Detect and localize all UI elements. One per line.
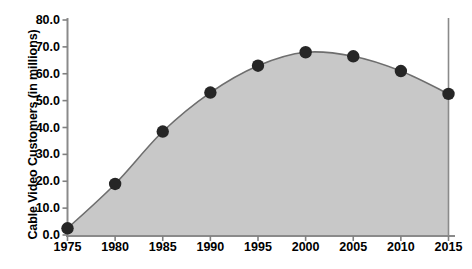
- data-point-marker: [299, 46, 311, 58]
- data-point-marker: [442, 88, 454, 100]
- data-point-marker: [157, 125, 169, 137]
- x-tick-label: 2010: [374, 241, 428, 254]
- data-point-marker: [252, 59, 264, 71]
- data-point-marker: [61, 222, 73, 234]
- data-point-marker: [395, 65, 407, 77]
- plot-area: [0, 0, 472, 269]
- area-fill: [68, 52, 449, 235]
- x-tick-label: 1980: [88, 241, 142, 254]
- x-tick-label: 2015: [422, 241, 472, 254]
- data-point-marker: [109, 178, 121, 190]
- x-tick-label: 1995: [231, 241, 285, 254]
- x-tick-label: 1975: [41, 241, 95, 254]
- x-tick-label: 2000: [279, 241, 333, 254]
- chart-container: Cable Video Customers (in millions) 80.0…: [0, 0, 472, 269]
- x-tick-label: 1985: [136, 241, 190, 254]
- x-tick-label: 2005: [326, 241, 380, 254]
- x-axis-tick-labels: 197519801985199019952000200520102015: [0, 241, 472, 263]
- data-point-marker: [347, 50, 359, 62]
- x-tick-label: 1990: [183, 241, 237, 254]
- data-point-marker: [204, 86, 216, 98]
